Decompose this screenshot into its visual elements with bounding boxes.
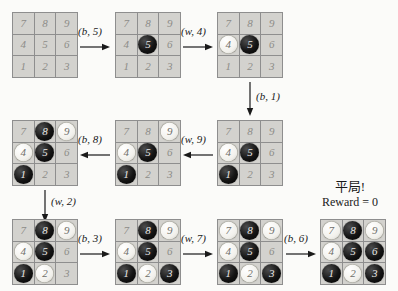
cell-1[interactable]: 1 — [218, 164, 239, 185]
cell-5[interactable]: 5 — [138, 143, 159, 164]
cell-3[interactable]: 3 — [261, 164, 282, 185]
cell-9[interactable]: 9 — [56, 13, 77, 34]
cell-6[interactable]: 6 — [261, 35, 282, 56]
cell-8[interactable]: 8 — [35, 220, 56, 241]
cell-8[interactable]: 8 — [240, 13, 261, 34]
cell-4[interactable]: 4 — [13, 242, 34, 263]
cell-6[interactable]: 6 — [364, 242, 385, 263]
cell-2[interactable]: 2 — [240, 164, 261, 185]
cell-8[interactable]: 8 — [138, 220, 159, 241]
cell-2[interactable]: 2 — [138, 263, 159, 284]
cell-4[interactable]: 4 — [13, 35, 34, 56]
cell-8[interactable]: 8 — [138, 13, 159, 34]
cell-1[interactable]: 1 — [13, 164, 34, 185]
cell-5[interactable]: 5 — [240, 242, 261, 263]
cell-4[interactable]: 4 — [218, 35, 239, 56]
cell-5[interactable]: 5 — [138, 35, 159, 56]
cell-7[interactable]: 7 — [218, 121, 239, 142]
cell-9[interactable]: 9 — [56, 220, 77, 241]
cell-7[interactable]: 7 — [13, 121, 34, 142]
arrow-b5 — [80, 42, 110, 52]
cell-9[interactable]: 9 — [261, 13, 282, 34]
cell-5[interactable]: 5 — [240, 143, 261, 164]
arrow-label-w7: (w, 7) — [181, 232, 206, 244]
cell-7[interactable]: 7 — [13, 220, 34, 241]
cell-6[interactable]: 6 — [56, 35, 77, 56]
arrow-label-b5: (b, 5) — [78, 25, 102, 37]
cell-9[interactable]: 9 — [364, 220, 385, 241]
cell-1[interactable]: 1 — [116, 164, 137, 185]
cell-number: 1 — [226, 169, 232, 180]
cell-5[interactable]: 5 — [240, 35, 261, 56]
cell-1[interactable]: 1 — [116, 56, 137, 77]
cell-9[interactable]: 9 — [159, 13, 180, 34]
cell-3[interactable]: 3 — [364, 263, 385, 284]
cell-3[interactable]: 3 — [261, 56, 282, 77]
cell-6[interactable]: 6 — [56, 143, 77, 164]
cell-2[interactable]: 2 — [240, 56, 261, 77]
cell-5[interactable]: 5 — [35, 242, 56, 263]
cell-4[interactable]: 4 — [116, 35, 137, 56]
cell-6[interactable]: 6 — [159, 143, 180, 164]
cell-9[interactable]: 9 — [56, 121, 77, 142]
cell-4[interactable]: 4 — [321, 242, 342, 263]
cell-7[interactable]: 7 — [321, 220, 342, 241]
cell-8[interactable]: 8 — [343, 220, 364, 241]
cell-7[interactable]: 7 — [116, 220, 137, 241]
cell-5[interactable]: 5 — [35, 143, 56, 164]
cell-1[interactable]: 1 — [116, 263, 137, 284]
cell-4[interactable]: 4 — [116, 143, 137, 164]
cell-4[interactable]: 4 — [218, 143, 239, 164]
cell-9[interactable]: 9 — [159, 220, 180, 241]
cell-2[interactable]: 2 — [343, 263, 364, 284]
cell-7[interactable]: 7 — [116, 121, 137, 142]
cell-6[interactable]: 6 — [159, 35, 180, 56]
cell-8[interactable]: 8 — [35, 13, 56, 34]
cell-3[interactable]: 3 — [56, 56, 77, 77]
cell-6[interactable]: 6 — [56, 242, 77, 263]
cell-1[interactable]: 1 — [321, 263, 342, 284]
cell-9[interactable]: 9 — [159, 121, 180, 142]
cell-1[interactable]: 1 — [218, 263, 239, 284]
arrow-w4 — [183, 42, 213, 52]
cell-2[interactable]: 2 — [138, 164, 159, 185]
cell-4[interactable]: 4 — [218, 242, 239, 263]
cell-4[interactable]: 4 — [116, 242, 137, 263]
cell-3[interactable]: 3 — [261, 263, 282, 284]
cell-2[interactable]: 2 — [240, 263, 261, 284]
cell-2[interactable]: 2 — [35, 263, 56, 284]
cell-7[interactable]: 7 — [13, 13, 34, 34]
cell-6[interactable]: 6 — [159, 242, 180, 263]
cell-6[interactable]: 6 — [261, 143, 282, 164]
cell-5[interactable]: 5 — [343, 242, 364, 263]
cell-7[interactable]: 7 — [218, 13, 239, 34]
cell-number: 5 — [145, 246, 151, 257]
result-annotation: 平局! Reward = 0 — [304, 179, 396, 210]
cell-7[interactable]: 7 — [116, 13, 137, 34]
cell-number: 5 — [42, 39, 48, 50]
cell-9[interactable]: 9 — [261, 121, 282, 142]
cell-8[interactable]: 8 — [138, 121, 159, 142]
cell-1[interactable]: 1 — [13, 56, 34, 77]
cell-8[interactable]: 8 — [35, 121, 56, 142]
cell-4[interactable]: 4 — [13, 143, 34, 164]
cell-8[interactable]: 8 — [240, 121, 261, 142]
cell-5[interactable]: 5 — [35, 35, 56, 56]
cell-2[interactable]: 2 — [35, 56, 56, 77]
cell-number: 4 — [21, 39, 27, 50]
cell-2[interactable]: 2 — [35, 164, 56, 185]
cell-9[interactable]: 9 — [261, 220, 282, 241]
cell-8[interactable]: 8 — [240, 220, 261, 241]
cell-3[interactable]: 3 — [159, 263, 180, 284]
cell-5[interactable]: 5 — [138, 242, 159, 263]
cell-1[interactable]: 1 — [13, 263, 34, 284]
cell-1[interactable]: 1 — [218, 56, 239, 77]
cell-3[interactable]: 3 — [159, 164, 180, 185]
cell-3[interactable]: 3 — [56, 164, 77, 185]
cell-number: 5 — [145, 147, 151, 158]
cell-2[interactable]: 2 — [138, 56, 159, 77]
cell-3[interactable]: 3 — [56, 263, 77, 284]
cell-7[interactable]: 7 — [218, 220, 239, 241]
cell-6[interactable]: 6 — [261, 242, 282, 263]
cell-3[interactable]: 3 — [159, 56, 180, 77]
